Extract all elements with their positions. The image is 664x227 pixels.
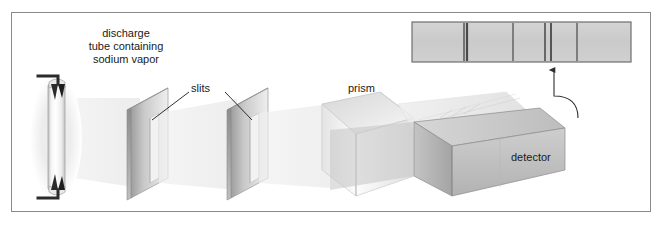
discharge-tube-label-line1: discharge bbox=[56, 27, 196, 40]
discharge-tube-label-line2: tube containing bbox=[56, 40, 196, 53]
discharge-tube-label-line3: sodium vapor bbox=[56, 53, 196, 66]
discharge-tube-label: discharge tube containing sodium vapor bbox=[56, 27, 196, 66]
slits-label: slits bbox=[191, 82, 210, 95]
figure-canvas: discharge tube containing sodium vapor s… bbox=[0, 0, 664, 227]
detector-label: detector bbox=[511, 151, 551, 164]
prism-label: prism bbox=[348, 82, 375, 95]
